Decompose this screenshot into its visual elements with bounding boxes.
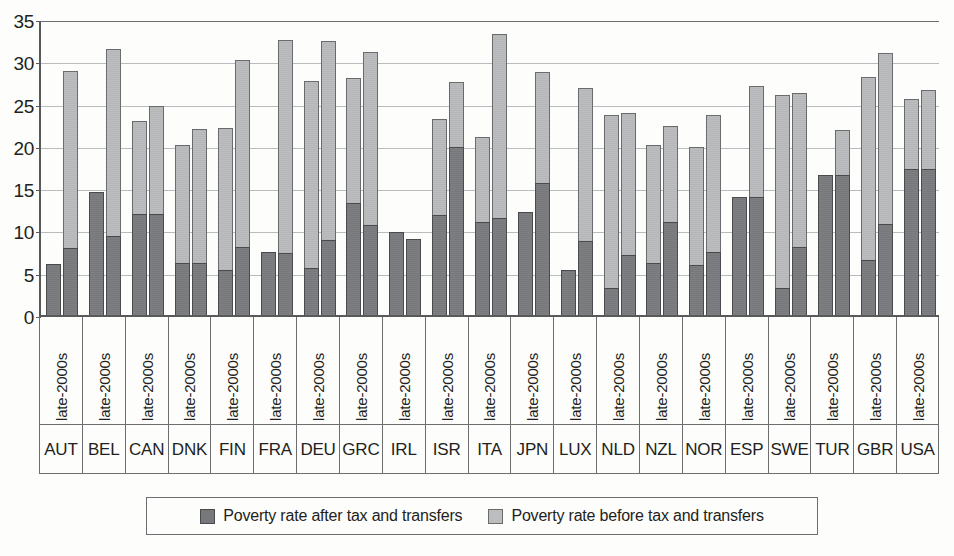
y-tick-label-0: 0 <box>24 308 34 327</box>
segment-before-tax <box>175 145 190 263</box>
bar-JPN-1 <box>518 212 533 315</box>
bar-group-USA <box>898 21 941 315</box>
period-label: late-2000s <box>52 353 69 421</box>
country-axis-row: AUTBELCANDNKFINFRADEUGRCIRLISRITAJPNLUXN… <box>39 425 939 474</box>
legend-swatch-light <box>488 509 503 524</box>
country-cell-LUX: LUX <box>553 425 596 474</box>
country-label-USA: USA <box>900 440 934 460</box>
y-tick-label-10: 10 <box>13 223 34 242</box>
bar-CAN-1 <box>132 121 147 316</box>
bar-ESP-1 <box>732 197 747 315</box>
bar-NLD-2 <box>621 113 636 315</box>
segment-after-tax <box>389 232 404 315</box>
segment-after-tax <box>663 222 678 315</box>
legend-label: Poverty rate before tax and transfers <box>511 507 763 525</box>
period-label: late-2000s <box>867 353 884 421</box>
bar-NZL-2 <box>663 126 678 315</box>
y-tick-label-5: 5 <box>24 265 34 284</box>
segment-before-tax <box>535 72 550 183</box>
country-cell-GBR: GBR <box>853 425 896 474</box>
bar-LUX-1 <box>561 270 576 315</box>
bar-group-NZL <box>641 21 684 315</box>
country-cell-DNK: DNK <box>168 425 211 474</box>
bar-DEU-2 <box>321 41 336 315</box>
segment-before-tax <box>706 115 721 252</box>
segment-after-tax <box>149 214 164 315</box>
bar-group-ITA <box>470 21 513 315</box>
country-cell-NZL: NZL <box>639 425 682 474</box>
country-label-ESP: ESP <box>730 440 763 460</box>
segment-after-tax <box>304 268 319 315</box>
period-cell-BEL: late-2000s <box>82 317 125 425</box>
plot-area <box>39 21 939 317</box>
segment-before-tax <box>604 115 619 288</box>
segment-after-tax <box>749 197 764 315</box>
country-cell-NOR: NOR <box>682 425 725 474</box>
segment-before-tax <box>492 34 507 218</box>
country-cell-USA: USA <box>896 425 939 474</box>
segment-before-tax <box>878 53 893 224</box>
segment-after-tax <box>89 192 104 315</box>
bar-NOR-2 <box>706 115 721 315</box>
segment-after-tax <box>363 225 378 315</box>
period-label: late-2000s <box>738 353 755 421</box>
country-cell-GRC: GRC <box>339 425 382 474</box>
period-label: late-2000s <box>95 353 112 421</box>
segment-after-tax <box>63 248 78 315</box>
bar-FRA-2 <box>278 40 293 315</box>
segment-after-tax <box>261 252 276 315</box>
segment-after-tax <box>689 265 704 315</box>
bar-GBR-2 <box>878 53 893 315</box>
segment-after-tax <box>861 260 876 315</box>
period-cell-DEU: late-2000s <box>296 317 339 425</box>
bar-SWE-1 <box>775 95 790 315</box>
bar-JPN-2 <box>535 72 550 315</box>
segment-after-tax <box>132 214 147 315</box>
segment-after-tax <box>492 218 507 315</box>
segment-after-tax <box>406 239 421 315</box>
segment-after-tax <box>175 263 190 315</box>
period-axis-row: late-2000slate-2000slate-2000slate-2000s… <box>39 317 939 425</box>
segment-after-tax <box>106 236 121 315</box>
segment-after-tax <box>475 222 490 315</box>
bar-ISR-1 <box>432 119 447 315</box>
country-label-NOR: NOR <box>685 440 722 460</box>
segment-after-tax <box>321 240 336 315</box>
period-label: late-2000s <box>395 353 412 421</box>
segment-before-tax <box>775 95 790 288</box>
bars-layer <box>41 21 939 315</box>
bar-group-CAN <box>127 21 170 315</box>
y-tick-label-20: 20 <box>13 138 34 157</box>
country-label-FIN: FIN <box>219 440 246 460</box>
period-cell-LUX: late-2000s <box>553 317 596 425</box>
bar-NZL-1 <box>646 145 661 315</box>
legend-entry-2: Poverty rate before tax and transfers <box>488 507 763 525</box>
segment-before-tax <box>792 93 807 248</box>
segment-after-tax <box>835 175 850 315</box>
bar-ISR-2 <box>449 82 464 315</box>
segment-before-tax <box>578 88 593 242</box>
bar-USA-1 <box>904 99 919 315</box>
bar-group-GBR <box>855 21 898 315</box>
bar-USA-2 <box>921 90 936 315</box>
bar-GBR-1 <box>861 77 876 315</box>
country-label-FRA: FRA <box>259 440 292 460</box>
country-label-GRC: GRC <box>342 440 379 460</box>
period-label: late-2000s <box>267 353 284 421</box>
segment-after-tax <box>578 241 593 315</box>
bar-BEL-1 <box>89 192 104 315</box>
period-cell-GBR: late-2000s <box>853 317 896 425</box>
bar-ITA-1 <box>475 137 490 315</box>
bar-LUX-2 <box>578 88 593 315</box>
period-cell-ESP: late-2000s <box>725 317 768 425</box>
segment-after-tax <box>346 203 361 315</box>
segment-after-tax <box>535 183 550 315</box>
bar-FIN-1 <box>218 128 233 315</box>
period-cell-CAN: late-2000s <box>125 317 168 425</box>
segment-after-tax <box>878 224 893 315</box>
bar-group-IRL <box>384 21 427 315</box>
country-cell-ISR: ISR <box>425 425 468 474</box>
segment-before-tax <box>363 52 378 225</box>
segment-before-tax <box>192 129 207 263</box>
segment-after-tax <box>432 215 447 315</box>
